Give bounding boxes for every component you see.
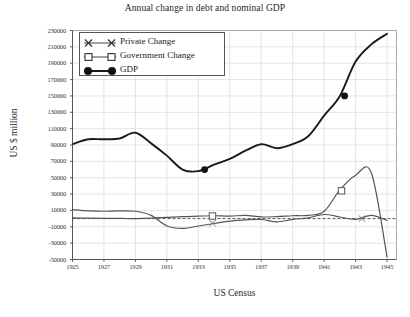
legend-label-gdp: GDP	[117, 64, 138, 74]
legend-marker-square-icon	[83, 49, 117, 61]
y-tick-label: 90000	[8, 141, 66, 148]
x-tick-label: 1945	[367, 263, 407, 270]
y-tick-label: 130000	[8, 108, 66, 115]
y-tick-label: 190000	[8, 59, 66, 66]
y-tick-label: -50000	[8, 256, 66, 263]
figure-container: Annual change in debt and nominal GDP US…	[0, 0, 410, 317]
legend-item-private-change: Private Change	[83, 34, 175, 48]
y-tick-label: 50000	[8, 174, 66, 181]
x-axis-label: US Census	[72, 288, 397, 298]
y-tick-label: 70000	[8, 157, 66, 164]
chart-legend: Private Change Government Change GDP	[79, 32, 225, 76]
legend-label-government-change: Government Change	[117, 50, 195, 60]
legend-marker-x-icon	[83, 35, 117, 47]
y-tick-label: 230000	[8, 27, 66, 34]
y-tick-label: 30000	[8, 190, 66, 197]
y-tick-label: -10000	[8, 223, 66, 230]
y-tick-label: 10000	[8, 206, 66, 213]
legend-marker-circle-icon	[83, 63, 117, 75]
y-tick-label: 110000	[8, 125, 66, 132]
y-tick-label: 170000	[8, 76, 66, 83]
y-tick-label: -30000	[8, 239, 66, 246]
legend-item-gdp: GDP	[83, 62, 138, 76]
y-tick-label: 150000	[8, 92, 66, 99]
y-tick-label: 210000	[8, 43, 66, 50]
legend-label-private-change: Private Change	[117, 36, 175, 46]
legend-item-government-change: Government Change	[83, 48, 195, 62]
